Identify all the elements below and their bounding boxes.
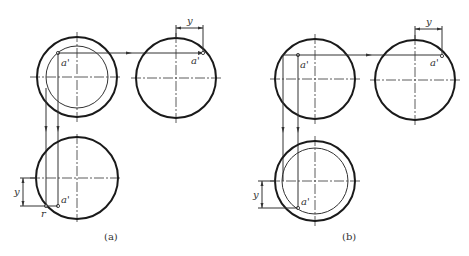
panel-a: a' a' y [13, 15, 222, 242]
svg-text:a': a' [430, 57, 439, 68]
panel-b-side-view: a' y [370, 16, 462, 125]
svg-text:y: y [13, 186, 20, 197]
svg-text:y: y [425, 16, 432, 27]
svg-text:a': a' [61, 194, 70, 205]
panel-a-front-view: a' [30, 32, 120, 122]
svg-text:a': a' [300, 59, 309, 70]
caption-a: (a) [104, 231, 118, 242]
label-r: r [41, 208, 47, 219]
projection-diagram: a' a' y [0, 0, 469, 256]
label-a-prime: a' [61, 57, 70, 68]
svg-text:a': a' [301, 196, 310, 207]
svg-text:y: y [252, 189, 259, 200]
caption-b: (b) [342, 231, 356, 242]
panel-b: a' a' y a' [252, 16, 462, 242]
svg-text:a': a' [191, 55, 200, 66]
dimension-y: y [186, 15, 193, 26]
panel-b-top-view: a' y [252, 136, 360, 226]
panel-a-top-view: a' r y [13, 134, 120, 222]
panel-a-side-view: a' y [131, 15, 222, 123]
